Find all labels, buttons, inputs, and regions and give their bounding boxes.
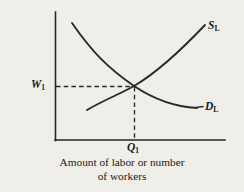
caption-line-2: of workers	[0, 170, 244, 184]
equilibrium-wage-symbol: W	[31, 78, 41, 90]
supply-curve-label: SL	[208, 20, 220, 32]
equilibrium-quantity-subscript: 1	[135, 146, 139, 155]
demand-label-leader	[196, 107, 203, 108]
equilibrium-quantity-marker: Q1	[127, 142, 139, 154]
caption-line-1: Amount of labor or number	[0, 156, 244, 170]
figure-caption: Amount of labor or number of workers	[0, 156, 244, 184]
demand-curve-subscript: L	[213, 105, 218, 114]
equilibrium-wage-marker: W1	[31, 79, 45, 91]
supply-curve-subscript: L	[214, 24, 219, 33]
demand-curve-label: DL	[205, 101, 219, 113]
labor-market-supply-demand-figure: Wage rate W1 Q1 SL DL Amount of labor or…	[0, 0, 244, 192]
equilibrium-wage-subscript: 1	[41, 83, 45, 92]
supply-curve	[87, 25, 205, 110]
